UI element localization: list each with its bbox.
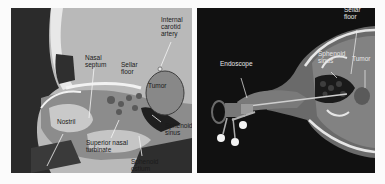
label-endoscope: Endoscope — [220, 60, 253, 67]
label-tumor: Tumor — [148, 82, 167, 89]
sagittal-anatomy-panel: Internal carotid artery Nasal septum Sel… — [11, 8, 192, 173]
label-nostril: Nostril — [57, 118, 75, 125]
label-nasal-septum: Nasal septum — [85, 54, 106, 68]
label-sellar-floor: Sellar floor — [121, 61, 138, 75]
label-superior-nasal-turbinate: Superior nasal turbinate — [86, 139, 128, 153]
axial-endoscope-panel: Sellar floor Sphenoid sinus Tumor Endosc… — [197, 8, 375, 173]
label-sphenoid-sinus: Sphenoid sinus — [165, 122, 192, 136]
label-internal-carotid-artery: Internal carotid artery — [161, 16, 183, 37]
label-sellar-floor: Sellar floor — [344, 8, 361, 20]
label-tumor: Tumor — [352, 55, 371, 62]
label-sphenoid-sinus: Sphenoid sinus — [318, 50, 345, 64]
axial-endoscope-image — [197, 8, 375, 173]
label-sphenoid-ostium: Sphenoid ostium — [131, 158, 158, 172]
